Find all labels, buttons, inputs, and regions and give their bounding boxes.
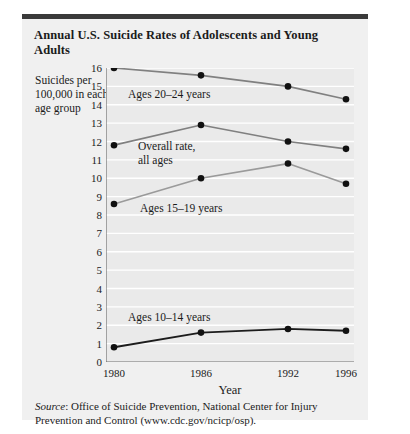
- card-top-rule: [22, 14, 368, 19]
- plot-area: 012345678910111213141516 198019861992199…: [106, 68, 354, 362]
- y-tick-label: 9: [97, 191, 103, 203]
- data-point: [198, 329, 205, 336]
- series-annotation: Ages 20–24 years: [128, 88, 210, 102]
- source-body: : Office of Suicide Prevention, National…: [35, 400, 318, 426]
- data-point: [343, 146, 350, 153]
- data-point: [343, 96, 350, 103]
- chart-title: Annual U.S. Suicide Rates of Adolescents…: [34, 28, 334, 58]
- y-tick-label: 0: [97, 356, 103, 368]
- data-point: [111, 142, 118, 149]
- y-tick-label: 8: [97, 209, 103, 221]
- data-point: [285, 83, 292, 90]
- x-tick-label: 1996: [335, 367, 357, 379]
- y-tick-label: 13: [91, 117, 102, 129]
- y-tick-label: 6: [97, 246, 103, 258]
- y-tick-label: 5: [97, 264, 103, 276]
- y-tick-label: 16: [91, 62, 102, 74]
- y-tick-label: 11: [91, 154, 102, 166]
- source-label: Source: [35, 400, 65, 412]
- data-point: [285, 138, 292, 145]
- data-point: [285, 326, 292, 333]
- series-annotation: Ages 15–19 years: [140, 202, 222, 216]
- y-tick-label: 12: [91, 136, 102, 148]
- data-point: [285, 160, 292, 167]
- y-tick-label: 10: [91, 172, 102, 184]
- source-note: Source: Office of Suicide Prevention, Na…: [35, 400, 357, 427]
- y-tick-label: 3: [97, 301, 103, 313]
- data-point: [343, 327, 350, 334]
- data-point: [111, 201, 118, 208]
- data-point: [343, 180, 350, 187]
- x-axis-title: Year: [106, 383, 354, 398]
- y-tick-label: 15: [91, 80, 102, 92]
- x-tick-label: 1980: [103, 367, 125, 379]
- data-point: [198, 175, 205, 182]
- series-annotation: Overall rate, all ages: [138, 140, 195, 167]
- x-tick-label: 1992: [277, 367, 299, 379]
- y-tick-label: 2: [97, 319, 103, 331]
- chart-card: Annual U.S. Suicide Rates of Adolescents…: [22, 14, 368, 420]
- data-point: [198, 122, 205, 129]
- x-tick-label: 1986: [190, 367, 212, 379]
- series-annotation: Ages 10–14 years: [128, 311, 210, 325]
- y-tick-label: 7: [97, 227, 103, 239]
- data-point: [198, 72, 205, 79]
- y-tick-label: 14: [91, 99, 102, 111]
- y-tick-label: 1: [97, 338, 103, 350]
- data-point: [111, 344, 118, 351]
- y-tick-label: 4: [97, 283, 103, 295]
